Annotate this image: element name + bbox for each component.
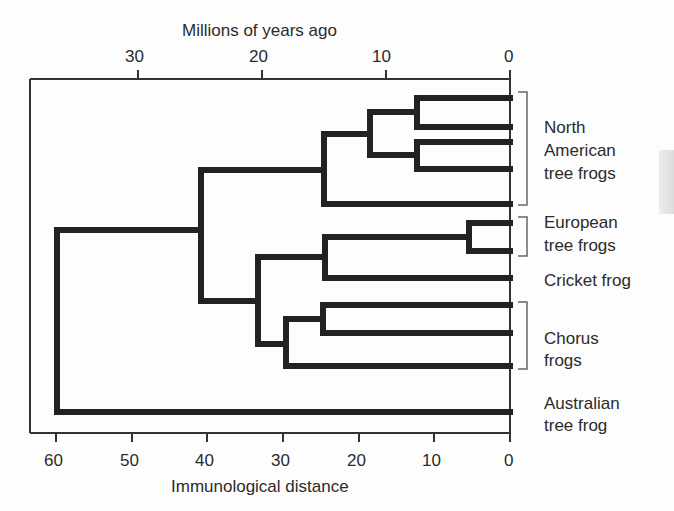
group-label-line: American [544, 140, 616, 161]
bottom-axis-ticks [56, 433, 510, 442]
branch-na-pair-1 [417, 98, 510, 127]
group-label-line: tree frogs [544, 163, 616, 184]
group-label-line: tree frog [544, 415, 607, 436]
bracket-north-american [518, 92, 527, 205]
group-label-line: frogs [544, 350, 582, 371]
top-axis-ticks [138, 70, 510, 79]
branch-na-subclade [370, 112, 417, 155]
top-tick-label: 10 [372, 46, 391, 67]
top-axis-title: Millions of years ago [182, 20, 337, 41]
branch-euro-chorus [258, 257, 325, 344]
bottom-tick-label: 0 [504, 450, 513, 471]
bottom-tick-label: 30 [271, 450, 290, 471]
branch-european-pair [469, 223, 510, 251]
tree-branches [57, 98, 510, 412]
group-label-line: Australian [544, 393, 620, 414]
bottom-tick-label: 40 [195, 450, 214, 471]
branch-na-pair-2 [417, 142, 510, 169]
group-label-line: North [544, 117, 586, 138]
group-label-line: European [544, 212, 618, 233]
top-tick-label: 0 [504, 46, 513, 67]
group-label-line: Chorus [544, 328, 599, 349]
top-tick-label: 20 [249, 46, 268, 67]
branch-euro-cricket [325, 237, 510, 278]
bottom-tick-label: 10 [422, 450, 441, 471]
bracket-european [518, 217, 527, 256]
branch-na-rest [201, 170, 324, 301]
bottom-tick-label: 60 [44, 450, 63, 471]
group-label-line: tree frogs [544, 235, 616, 256]
branch-chorus-clade [286, 319, 510, 366]
branch-chorus-pair [323, 305, 510, 333]
top-tick-label: 30 [125, 46, 144, 67]
bottom-tick-label: 50 [120, 450, 139, 471]
label-cricket-frog: Cricket frog [544, 270, 631, 291]
bracket-chorus [518, 302, 527, 369]
bottom-axis-title: Immunological distance [171, 476, 349, 497]
group-brackets [518, 92, 527, 369]
bottom-tick-label: 20 [347, 450, 366, 471]
